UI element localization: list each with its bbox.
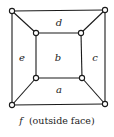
vertex bbox=[102, 7, 107, 12]
edge bbox=[81, 33, 82, 78]
face-label-d: d bbox=[56, 17, 62, 28]
vertex bbox=[9, 102, 14, 107]
edge bbox=[12, 10, 105, 11]
edge bbox=[82, 78, 105, 104]
edge bbox=[12, 104, 105, 105]
vertex bbox=[33, 30, 38, 35]
vertex bbox=[102, 101, 107, 106]
face-label-c: c bbox=[92, 52, 98, 63]
outside-face-text: (outside face) bbox=[29, 115, 95, 126]
vertex bbox=[9, 8, 14, 13]
face-label-a: a bbox=[56, 84, 62, 95]
edge bbox=[12, 11, 36, 33]
outside-face-caption: f (outside face) bbox=[0, 115, 114, 126]
vertex bbox=[79, 75, 84, 80]
vertex bbox=[33, 75, 38, 80]
edge bbox=[81, 10, 105, 33]
face-label-b: b bbox=[55, 52, 61, 63]
face-label-e: e bbox=[19, 52, 25, 63]
edge bbox=[12, 78, 36, 105]
vertex bbox=[78, 30, 83, 35]
outside-face-label: f bbox=[19, 115, 23, 126]
